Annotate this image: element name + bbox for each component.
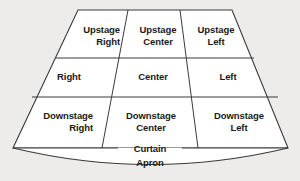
stage-areas-diagram: Upstage Right Upstage Center Upstage Lef… xyxy=(0,0,300,181)
zone-label-line1: Downstage xyxy=(43,110,93,121)
zone-label-downstage-left: Downstage Left xyxy=(200,110,278,133)
zone-label-line1: Upstage xyxy=(140,24,177,35)
curtain-label: Curtain xyxy=(120,143,180,155)
apron-label: Apron xyxy=(120,157,180,169)
zone-label-line2: Center xyxy=(130,36,186,48)
zone-label-line1: Center xyxy=(138,71,168,82)
zone-label-downstage-center: Downstage Center xyxy=(110,110,192,133)
zone-label-downstage-right: Downstage Right xyxy=(21,110,93,133)
zone-label-line1: Left xyxy=(219,71,236,82)
zone-label-center: Center xyxy=(124,71,182,83)
zone-label-line2: Right xyxy=(62,36,120,48)
zone-label-left: Left xyxy=(203,71,253,83)
zone-label-line2: Left xyxy=(190,36,242,48)
zone-label-line1: Right xyxy=(57,71,81,82)
zone-label-line1: Downstage xyxy=(214,110,264,121)
zone-label-line1: Upstage xyxy=(83,24,120,35)
zone-label-line1: Downstage xyxy=(126,110,176,121)
zone-label-line2: Right xyxy=(21,122,93,134)
zone-label-upstage-left: Upstage Left xyxy=(190,24,242,47)
zone-label-upstage-center: Upstage Center xyxy=(130,24,186,47)
zone-label-line2: Left xyxy=(200,122,278,134)
zone-label-line2: Center xyxy=(110,122,192,134)
zone-label-right: Right xyxy=(40,71,98,83)
zone-label-upstage-right: Upstage Right xyxy=(62,24,120,47)
zone-label-line1: Upstage xyxy=(198,24,235,35)
